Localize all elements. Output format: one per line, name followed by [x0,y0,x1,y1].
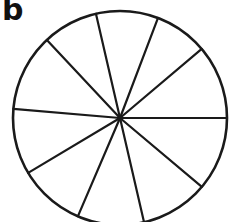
figure-panel: b [0,0,232,222]
divided-circle-diagram [0,0,232,222]
center-point [117,115,122,120]
panel-label: b [2,0,23,25]
